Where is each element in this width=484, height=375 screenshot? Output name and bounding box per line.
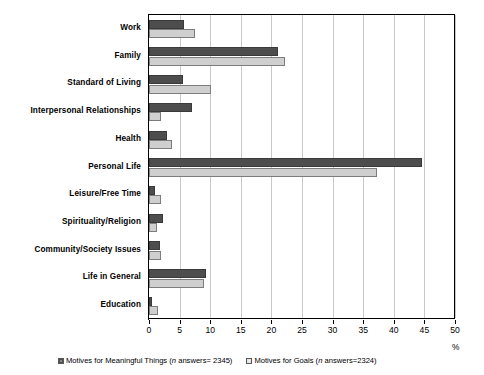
x-tick-10: [210, 320, 211, 324]
plot-area: [149, 14, 455, 319]
x-tick-25: [302, 320, 303, 324]
x-tick-label-35: 35: [358, 325, 368, 335]
x-axis-unit-label: %: [452, 342, 459, 352]
category-label: Personal Life: [88, 162, 141, 170]
x-tick-label-45: 45: [420, 325, 430, 335]
bar-leisure-free-time-meaningful: [149, 186, 155, 195]
chart-legend: Motives for Meaningful Things (n answers…: [58, 357, 377, 365]
legend-swatch-light: [246, 358, 252, 364]
bar-health-goals: [149, 140, 172, 149]
x-tick-label-15: 15: [236, 325, 246, 335]
category-label: Family: [114, 51, 141, 59]
legend-label: Motives for Meaningful Things (n answers…: [66, 357, 232, 365]
gridline-45: [424, 15, 425, 318]
bar-interpersonal-relationships-goals: [149, 112, 161, 121]
legend-swatch-dark: [58, 358, 64, 364]
x-tick-label-0: 0: [147, 325, 152, 335]
bar-life-in-general-goals: [149, 279, 204, 288]
bar-spirituality-religion-goals: [149, 223, 157, 232]
plot-area-wrapper: WorkFamilyStandard of LivingInterpersona…: [0, 0, 484, 340]
bar-education-goals: [149, 306, 158, 315]
bar-work-goals: [149, 29, 195, 38]
bar-education-meaningful: [149, 297, 152, 306]
bar-life-in-general-meaningful: [149, 269, 206, 278]
x-tick-label-25: 25: [297, 325, 307, 335]
x-tick-label-50: 50: [450, 325, 460, 335]
x-tick-5: [180, 320, 181, 324]
bar-spirituality-religion-meaningful: [149, 214, 163, 223]
x-tick-40: [394, 320, 395, 324]
legend-label: Motives for Goals (n answers=2324): [254, 357, 376, 365]
legend-item-2: Motives for Goals (n answers=2324): [246, 357, 376, 365]
bar-work-meaningful: [149, 20, 184, 29]
bar-leisure-free-time-goals: [149, 195, 161, 204]
category-label: Leisure/Free Time: [69, 190, 141, 198]
x-tick-20: [271, 320, 272, 324]
bar-chart: WorkFamilyStandard of LivingInterpersona…: [0, 0, 484, 375]
bar-community-society-issues-goals: [149, 251, 161, 260]
x-tick-label-5: 5: [177, 325, 182, 335]
x-tick-45: [424, 320, 425, 324]
category-label: Education: [101, 301, 141, 309]
x-tick-50: [455, 320, 456, 324]
x-tick-label-10: 10: [205, 325, 215, 335]
bar-community-society-issues-meaningful: [149, 241, 160, 250]
category-label: Interpersonal Relationships: [30, 107, 141, 115]
bar-personal-life-meaningful: [149, 158, 422, 167]
category-label: Life in General: [83, 273, 141, 281]
bar-family-meaningful: [149, 47, 278, 56]
x-tick-label-40: 40: [389, 325, 399, 335]
bar-personal-life-goals: [149, 168, 377, 177]
category-label: Work: [120, 24, 141, 32]
bar-standard-of-living-meaningful: [149, 75, 183, 84]
x-tick-label-20: 20: [267, 325, 277, 335]
x-tick-15: [241, 320, 242, 324]
legend-item-1: Motives for Meaningful Things (n answers…: [58, 357, 232, 365]
x-axis: 05101520253035404550: [149, 320, 455, 338]
x-tick-35: [363, 320, 364, 324]
category-label: Standard of Living: [67, 79, 141, 87]
gridline-50: [455, 15, 456, 318]
category-axis-labels: WorkFamilyStandard of LivingInterpersona…: [0, 14, 147, 319]
category-label: Spirituality/Religion: [62, 218, 141, 226]
bar-interpersonal-relationships-meaningful: [149, 103, 192, 112]
x-tick-label-30: 30: [328, 325, 338, 335]
bar-health-meaningful: [149, 131, 167, 140]
bar-family-goals: [149, 57, 285, 66]
category-label: Health: [115, 135, 141, 143]
x-tick-30: [333, 320, 334, 324]
bar-standard-of-living-goals: [149, 85, 211, 94]
category-label: Community/Society Issues: [34, 246, 141, 254]
x-tick-0: [149, 320, 150, 324]
